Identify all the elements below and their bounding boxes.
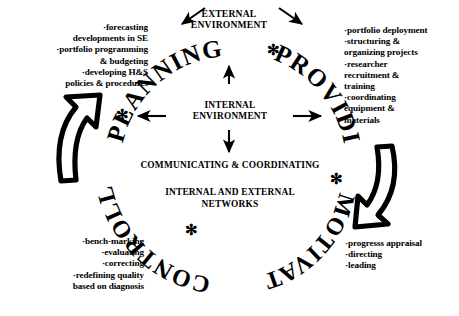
asterisk-marker-controlling: ✻ — [185, 223, 198, 238]
internal-external-networks-label: INTERNAL AND EXTERNAL NETWORKS — [143, 187, 317, 210]
cycle-arrow-right — [355, 146, 395, 227]
communicating-coordinating-label: COMMUNICATING & COORDINATING — [118, 160, 342, 171]
cycle-arrow-left — [59, 95, 100, 181]
asterisk-marker-planning: ✻ — [116, 108, 129, 123]
asterisk-marker-providing: ✻ — [267, 43, 280, 58]
external-environment-label: EXTERNAL ENVIRONMENT — [159, 8, 299, 31]
quadrant-text-planning: ·forecasting developments in SE ·portfol… — [8, 22, 148, 89]
internal-environment-label: INTERNAL ENVIRONMENT — [174, 100, 286, 122]
quadrant-text-providing: ·portfolio deployment ·structuring & org… — [344, 25, 459, 126]
diagram-canvas: PLANNING PROVIDING MOTIVATING CONTROLLIN… — [0, 0, 459, 316]
quadrant-text-controlling: ·bench-marking ·evaluating ·correcting ·… — [10, 236, 144, 292]
asterisk-marker-motivating: ✻ — [330, 172, 343, 187]
quadrant-text-motivating: ·progresss appraisal ·directing ·leading — [345, 238, 457, 272]
